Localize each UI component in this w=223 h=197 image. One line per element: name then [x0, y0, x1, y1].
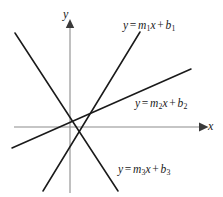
eq3-equals: = [123, 163, 133, 175]
eq2-slope: m [150, 97, 159, 109]
eq2-variable: x [162, 97, 167, 109]
eq2-intercept-subscript: 2 [183, 102, 187, 111]
eq1-plus: + [156, 19, 166, 31]
eq3-plus: + [151, 163, 161, 175]
figure-three-lines-graph: y=m1x+b1 y=m2x+b2 y=m3x+b3 y x [0, 0, 223, 197]
eq2-plus: + [168, 97, 178, 109]
y-axis-label: y [63, 8, 68, 20]
equation-label-m1: y=m1x+b1 [123, 20, 175, 33]
eq3-intercept-subscript: 3 [166, 168, 170, 177]
line-m3 [15, 33, 118, 191]
equation-label-m2: y=m2x+b2 [135, 98, 187, 111]
eq1-variable: x [150, 19, 155, 31]
x-axis-label: x [208, 120, 213, 132]
eq1-equals: = [128, 19, 138, 31]
y-axis [66, 19, 74, 193]
eq2-equals: = [140, 97, 150, 109]
eq3-slope: m [133, 163, 142, 175]
graph-canvas [0, 0, 223, 197]
eq1-slope: m [138, 19, 147, 31]
equation-label-m3: y=m3x+b3 [118, 164, 170, 177]
eq3-variable: x [145, 163, 150, 175]
eq1-intercept-subscript: 1 [171, 24, 175, 33]
x-axis [14, 123, 209, 132]
